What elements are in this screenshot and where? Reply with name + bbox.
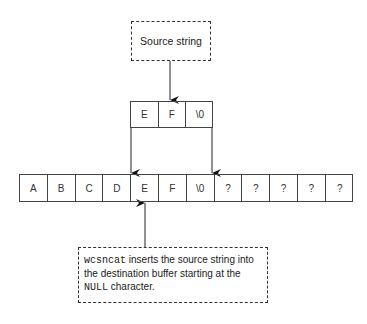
note-text-end: character. (108, 281, 155, 292)
destination-array: A B C D E F \0 ? ? ? ? ? (19, 174, 353, 202)
source-cell: \0 (186, 102, 214, 127)
source-cell: E (131, 102, 159, 127)
dest-cell: ? (298, 175, 326, 201)
note-code-null: NULL (84, 282, 108, 293)
dest-cell: ? (242, 175, 270, 201)
note-code-function: wcsncat (84, 255, 126, 266)
source-array: E F \0 (130, 101, 213, 128)
dest-cell: ? (326, 175, 354, 201)
source-string-box: Source string (131, 21, 211, 61)
dest-cell: D (103, 175, 131, 201)
dest-cell: A (20, 175, 48, 201)
source-string-label: Source string (140, 35, 202, 47)
explanation-note: wcsncat inserts the source string into t… (78, 247, 268, 303)
dest-cell: E (131, 175, 159, 201)
dest-cell: \0 (187, 175, 215, 201)
dest-cell: ? (215, 175, 243, 201)
source-cell: F (159, 102, 187, 127)
dest-cell: C (76, 175, 104, 201)
dest-cell: F (159, 175, 187, 201)
dest-cell: B (48, 175, 76, 201)
dest-cell: ? (270, 175, 298, 201)
